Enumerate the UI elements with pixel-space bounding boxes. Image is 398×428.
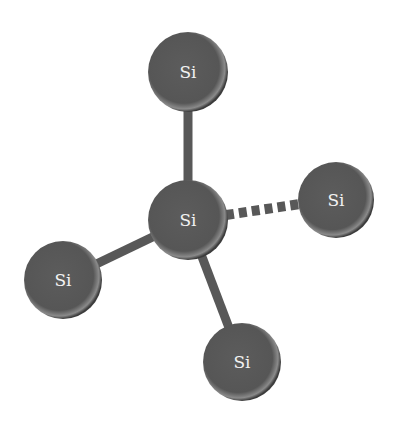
atom-label: Si	[179, 210, 197, 230]
bond-center-right-dashed	[226, 204, 300, 215]
atom-center: Si	[148, 180, 228, 260]
atom-label: Si	[54, 270, 72, 290]
atom-right: Si	[298, 162, 374, 238]
atom-label: Si	[179, 62, 197, 82]
atom-top: Si	[148, 32, 228, 112]
atom-left: Si	[24, 241, 102, 319]
atom-bottom: Si	[203, 323, 281, 401]
silicon-tetrahedron-diagram: Si Si Si Si Si	[0, 0, 398, 428]
atom-label: Si	[233, 352, 251, 372]
atom-label: Si	[327, 190, 345, 210]
